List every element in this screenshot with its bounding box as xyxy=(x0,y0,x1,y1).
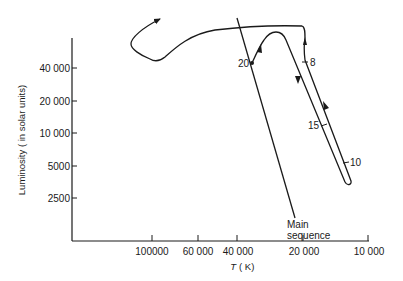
marker-10-label: 10 xyxy=(350,157,362,168)
evolutionary-track-top xyxy=(131,19,302,61)
y-axis-title: Luminosity ( in solar units) xyxy=(16,85,27,195)
main-sequence-label-line1: Main xyxy=(287,219,309,230)
x-tick-label: 100000 xyxy=(135,246,169,257)
track-arrow-up-right xyxy=(303,37,307,45)
x-tick-label: 40 000 xyxy=(223,246,254,257)
x-ticks: 100000 60 000 40 000 20 000 10 000 xyxy=(135,235,384,257)
y-ticks: 40 000 20 000 10 000 5000 2500 xyxy=(39,63,77,204)
y-tick-label: 10 000 xyxy=(39,128,70,139)
chart: 40 000 20 000 10 000 5000 2500 100000 60… xyxy=(0,0,403,281)
track-arrow-up-lower xyxy=(323,101,329,110)
track-arrow-down xyxy=(295,76,301,84)
main-sequence-line xyxy=(237,18,295,218)
x-axis-title-unit: ( K) xyxy=(239,261,254,272)
marker-20-dot xyxy=(250,61,254,65)
y-tick-label: 2500 xyxy=(48,193,71,204)
marker-20-label: 20 xyxy=(238,58,250,69)
marker-8-label: 8 xyxy=(310,57,316,68)
x-tick-label: 10 000 xyxy=(354,246,385,257)
evolutionary-track-hump xyxy=(252,32,345,182)
x-axis-title-symbol: T xyxy=(230,261,237,272)
x-tick-label: 60 000 xyxy=(183,246,214,257)
y-tick-label: 40 000 xyxy=(39,63,70,74)
x-tick-label: 20 000 xyxy=(289,246,320,257)
main-sequence-label-line2: sequence xyxy=(287,230,331,241)
marker-15-label: 15 xyxy=(308,120,320,131)
y-tick-label: 5000 xyxy=(48,161,71,172)
y-tick-label: 20 000 xyxy=(39,96,70,107)
